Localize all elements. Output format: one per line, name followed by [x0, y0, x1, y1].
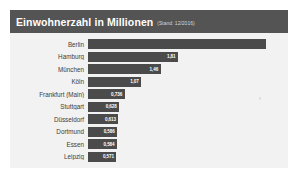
bar-row: Köln1,07 — [10, 76, 288, 88]
bar-value-label: 0,586 — [104, 129, 115, 134]
bar-value-label: 1,81 — [167, 54, 176, 59]
bar-row: Hamburg1,81 — [10, 51, 288, 63]
bar-track: 1,81 — [88, 51, 288, 63]
bar-value-label: 0,613 — [105, 117, 116, 122]
bar-track: 0,586 — [88, 126, 288, 138]
bar-row: Essen0,584 — [10, 138, 288, 150]
bar-row: Frankfurt (Main)0,736 — [10, 88, 288, 100]
bar-value-label: 1,46 — [150, 67, 159, 72]
bar-category-label: Leipzig — [10, 153, 88, 160]
plot-artifact-mark — [259, 97, 261, 100]
bar-row: München1,46 — [10, 63, 288, 75]
bar-value-label: 1,07 — [130, 79, 139, 84]
bar-category-label: Düsseldorf — [10, 116, 88, 123]
bar[interactable]: 1,46 — [88, 64, 161, 74]
bar-category-label: Berlin — [10, 41, 88, 48]
bar-track: 0,613 — [88, 113, 288, 125]
bar-category-label: Frankfurt (Main) — [10, 91, 88, 98]
bar-track: 0,584 — [88, 138, 288, 150]
bar-track: 0,736 — [88, 88, 288, 100]
bar-value-label: 0,571 — [103, 154, 114, 159]
bar-track: 1,46 — [88, 63, 288, 75]
chart-title: Einwohnerzahl in Millionen — [16, 16, 153, 28]
bar[interactable]: 0,736 — [88, 89, 125, 99]
bar-track: 3,575 — [88, 38, 288, 50]
bar-track: 1,07 — [88, 76, 288, 88]
bar-row: Leipzig0,571 — [10, 151, 288, 163]
bar-category-label: Stuttgart — [10, 103, 88, 110]
bar-row: Dortmund0,586 — [10, 126, 288, 138]
screenshot-canvas: Einwohnerzahl in Millionen (Stand: 12/20… — [0, 0, 300, 177]
bar[interactable]: 0,628 — [88, 102, 119, 112]
bar-value-label: 0,584 — [104, 142, 115, 147]
chart-plot-area: Berlin3,575Hamburg1,81München1,46Köln1,0… — [10, 33, 288, 168]
chart-header: Einwohnerzahl in Millionen (Stand: 12/20… — [10, 10, 288, 33]
bar-track: 0,571 — [88, 151, 288, 163]
bar[interactable]: 1,81 — [88, 52, 178, 62]
bar-row: Düsseldorf0,613 — [10, 113, 288, 125]
chart-card: Einwohnerzahl in Millionen (Stand: 12/20… — [10, 10, 288, 168]
bar-category-label: Hamburg — [10, 53, 88, 60]
bar-category-label: München — [10, 66, 88, 73]
bar[interactable]: 0,586 — [88, 127, 117, 137]
chart-subtitle: (Stand: 12/2016) — [157, 20, 194, 26]
bar-category-label: Essen — [10, 141, 88, 148]
bar-row: Berlin3,575 — [10, 38, 288, 50]
bar[interactable]: 0,584 — [88, 139, 117, 149]
bar-category-label: Köln — [10, 78, 88, 85]
bar[interactable]: 0,571 — [88, 152, 116, 162]
bar-category-label: Dortmund — [10, 128, 88, 135]
bar[interactable]: 1,07 — [88, 77, 141, 87]
bar[interactable]: 0,613 — [88, 114, 118, 124]
bar-value-label: 0,736 — [111, 92, 122, 97]
bar-value-label: 0,628 — [106, 104, 117, 109]
bar[interactable]: 3,575 — [88, 39, 266, 49]
bar-track: 0,628 — [88, 101, 288, 113]
bar-row: Stuttgart0,628 — [10, 101, 288, 113]
